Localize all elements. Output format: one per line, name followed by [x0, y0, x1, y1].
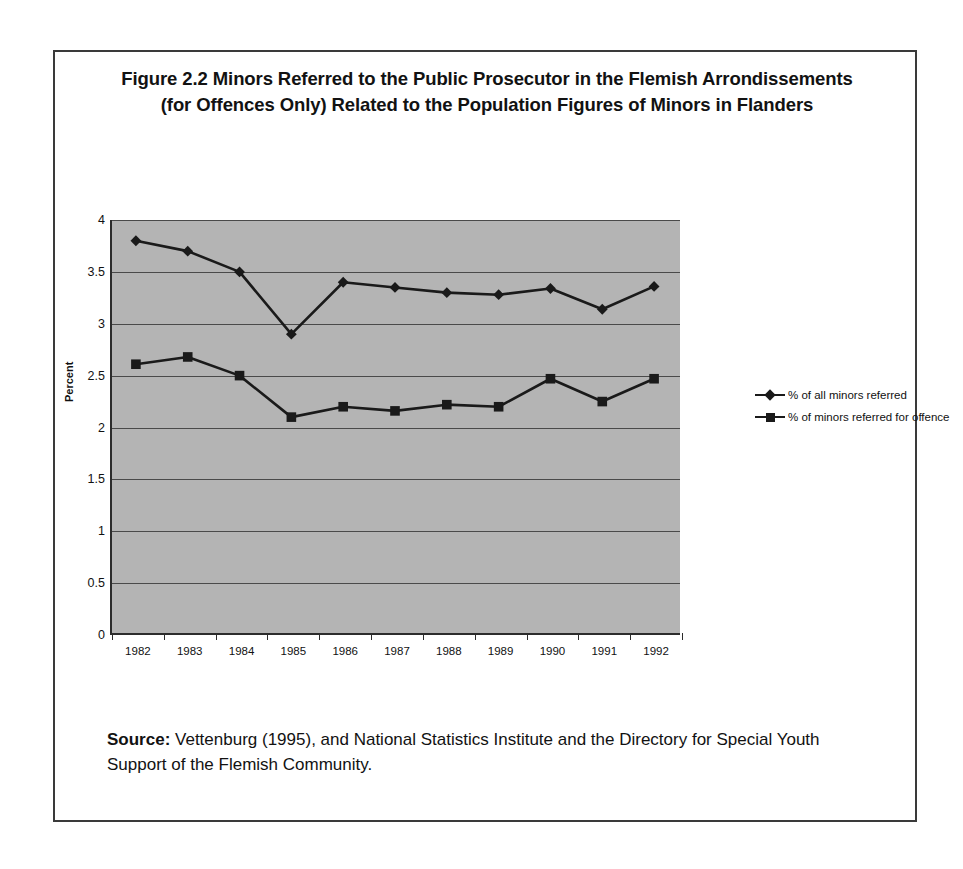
- square-marker-icon: [390, 406, 400, 416]
- square-marker-icon: [131, 359, 141, 369]
- square-marker-icon: [649, 374, 659, 384]
- square-marker-icon: [235, 371, 245, 381]
- diamond-marker-icon: [755, 388, 785, 402]
- diamond-marker-icon: [649, 281, 660, 292]
- y-tick-label: 2.5: [88, 369, 105, 383]
- x-tick-label: 1991: [591, 645, 617, 657]
- y-tick-label: 1.5: [88, 472, 105, 486]
- source-text: Vettenburg (1995), and National Statisti…: [107, 730, 820, 774]
- x-tick-label: 1988: [436, 645, 462, 657]
- chart-legend: % of all minors referred % of minors ref…: [755, 384, 963, 428]
- diamond-marker-icon: [597, 304, 608, 315]
- diamond-marker-icon: [182, 246, 193, 257]
- square-marker-icon: [546, 374, 556, 384]
- square-marker-icon: [287, 412, 297, 422]
- x-tick-label: 1984: [229, 645, 255, 657]
- x-tick-label: 1990: [540, 645, 566, 657]
- diamond-marker-icon: [493, 289, 504, 300]
- y-tick-label: 1: [98, 524, 105, 538]
- square-marker-icon: [755, 410, 785, 424]
- square-marker-icon: [338, 402, 348, 412]
- square-marker-icon: [183, 352, 193, 362]
- square-marker-icon: [597, 397, 607, 407]
- x-tick-label: 1982: [125, 645, 151, 657]
- legend-item-all-minors: % of all minors referred: [755, 384, 963, 406]
- y-tick-label: 3.5: [88, 265, 105, 279]
- legend-item-offence: % of minors referred for offence: [755, 406, 963, 428]
- x-tick-label: 1992: [643, 645, 669, 657]
- x-tick-label: 1987: [384, 645, 410, 657]
- y-tick-label: 4: [98, 213, 105, 227]
- y-tick-label: 2: [98, 421, 105, 435]
- y-tick-label: 3: [98, 317, 105, 331]
- y-tick-label: 0.5: [88, 576, 105, 590]
- diamond-marker-icon: [441, 287, 452, 298]
- diamond-marker-icon: [131, 235, 142, 246]
- y-axis-title: Percent: [63, 362, 75, 402]
- square-marker-icon: [442, 400, 452, 410]
- x-tick-label: 1983: [177, 645, 203, 657]
- figure-frame: Figure 2.2 Minors Referred to the Public…: [53, 50, 917, 822]
- x-tick-mark: [682, 633, 683, 640]
- x-tick-label: 1986: [332, 645, 358, 657]
- square-marker-icon: [494, 402, 504, 412]
- legend-label: % of all minors referred: [788, 389, 907, 401]
- diamond-marker-icon: [390, 282, 401, 293]
- source-label: Source:: [107, 730, 170, 749]
- x-tick-label: 1989: [488, 645, 514, 657]
- y-tick-label: 0: [98, 628, 105, 642]
- chart-plot-lines: [110, 220, 680, 635]
- chart-region: Percent 00.511.522.533.54198219831984198…: [55, 192, 915, 712]
- legend-label: % of minors referred for offence: [788, 411, 950, 423]
- x-tick-label: 1985: [281, 645, 307, 657]
- figure-title: Figure 2.2 Minors Referred to the Public…: [105, 66, 869, 118]
- source-note: Source: Vettenburg (1995), and National …: [107, 727, 875, 777]
- diamond-marker-icon: [545, 283, 556, 294]
